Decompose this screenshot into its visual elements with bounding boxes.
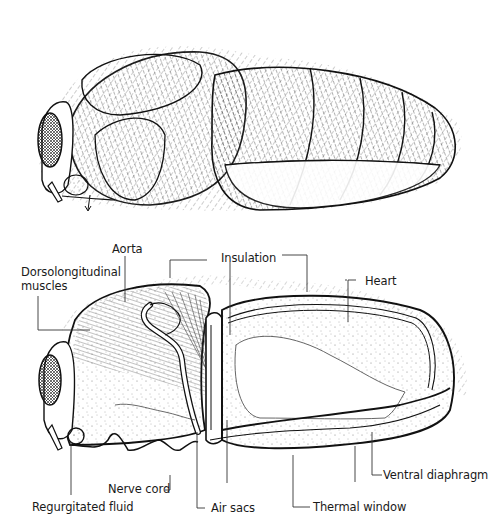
bottom-insect-section	[39, 280, 463, 450]
label-aorta: Aorta	[112, 243, 143, 256]
label-dorsolongitudinal-muscles-line2: muscles	[21, 280, 67, 293]
label-insulation: Insulation	[221, 252, 276, 265]
label-regurgitated-fluid: Regurgitated fluid	[32, 501, 133, 514]
label-heart: Heart	[365, 275, 397, 288]
label-ventral-diaphragm: Ventral diaphragm	[383, 469, 488, 482]
compound-eye-icon	[38, 113, 62, 167]
fluid-droplet-icon	[68, 428, 84, 444]
compound-eye-section-icon	[39, 355, 61, 405]
label-air-sacs: Air sacs	[211, 502, 255, 515]
top-insect-body	[38, 46, 461, 211]
label-thermal-window: Thermal window	[313, 501, 406, 514]
label-dorsolongitudinal-muscles-line1: Dorsolongitudinal	[21, 266, 121, 279]
label-nerve-cord: Nerve cord	[108, 483, 170, 496]
insect-anatomy-figure: Aorta Dorsolongitudinal muscles Insulati…	[0, 0, 492, 525]
